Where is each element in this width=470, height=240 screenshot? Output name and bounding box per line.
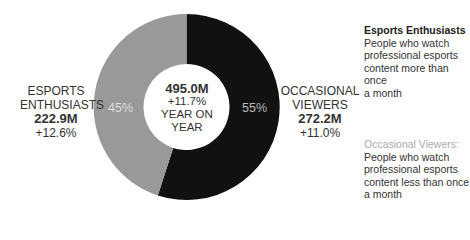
label-name: VIEWERS xyxy=(280,98,360,112)
label-name: OCCASIONAL xyxy=(280,84,360,98)
label-growth: +12.6% xyxy=(20,126,92,140)
legend-title: Occasional Viewers: xyxy=(364,138,470,151)
total-value: 495.0M xyxy=(146,82,228,95)
label-value: 222.9M xyxy=(20,112,92,126)
label-name: ENTHUSIASTS xyxy=(20,98,92,112)
legend-desc: content less than once xyxy=(364,176,470,189)
label-name: ESPORTS xyxy=(20,84,92,98)
legend-occasional: Occasional Viewers: People who watch pro… xyxy=(364,138,470,201)
legend-desc: professional esports xyxy=(364,49,470,62)
legend-desc: professional esports xyxy=(364,163,470,176)
legend-title: Esports Enthusiasts xyxy=(364,24,470,37)
label-growth: +11.0% xyxy=(280,126,360,140)
legend-desc: People who watch xyxy=(364,151,470,164)
legend-desc: a month xyxy=(364,188,470,201)
label-occasional: OCCASIONAL VIEWERS 272.2M +11.0% xyxy=(280,84,360,140)
total-caption: YEAR ON YEAR xyxy=(146,108,228,134)
legend-desc: People who watch xyxy=(364,37,470,50)
legend-desc: a month xyxy=(364,87,470,100)
pct-occasional: 55% xyxy=(242,101,267,115)
pct-enthusiasts: 45% xyxy=(108,101,133,115)
total-growth: +11.7% xyxy=(146,95,228,108)
legend-desc: content more than once xyxy=(364,62,470,87)
legend-enthusiasts: Esports Enthusiasts People who watch pro… xyxy=(364,24,470,99)
donut-center-total: 495.0M +11.7% YEAR ON YEAR xyxy=(146,82,228,134)
label-enthusiasts: ESPORTS ENTHUSIASTS 222.9M +12.6% xyxy=(20,84,92,140)
label-value: 272.2M xyxy=(280,112,360,126)
